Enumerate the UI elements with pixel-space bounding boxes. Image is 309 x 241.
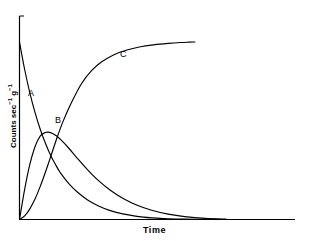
curve-a [20, 42, 227, 220]
curve-label-a: A [28, 89, 34, 98]
y-axis-title-exp2: −1 [7, 84, 13, 91]
y-axis-title: Counts sec−1 g−1 [10, 68, 18, 164]
curve-c [20, 42, 196, 220]
chart-plot-area [0, 0, 309, 241]
curve-label-c: C [120, 50, 127, 59]
y-axis-title-exp1: −1 [7, 98, 13, 105]
figure-container: A B C Counts sec−1 g−1 Time [0, 0, 309, 241]
y-axis-title-base1: Counts sec [9, 105, 18, 148]
curve-b [20, 132, 227, 219]
y-axis-title-base2: g [9, 91, 18, 98]
curve-label-b: B [55, 116, 61, 125]
x-axis-title: Time [0, 226, 309, 235]
